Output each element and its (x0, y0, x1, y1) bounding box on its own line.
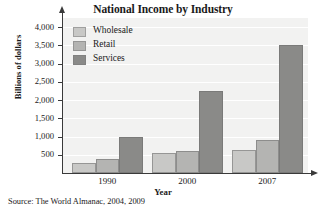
y-axis-tick (58, 155, 63, 156)
legend-label-retail: Retail (93, 39, 115, 49)
gridline (63, 137, 308, 138)
legend-swatch-retail (73, 41, 86, 51)
y-axis-tick (58, 137, 63, 138)
bar-wholesale-2007 (232, 150, 256, 173)
source-note: Source: The World Almanac, 2004, 2009 (8, 197, 145, 206)
bar-services-1990 (119, 137, 143, 173)
gridline (63, 100, 308, 101)
y-axis-tick (58, 118, 63, 119)
y-axis-tick (58, 27, 63, 28)
y-axis-line (62, 12, 63, 174)
x-axis-title: Year (0, 187, 326, 197)
chart-figure: National Income by Industry 5001,0001,50… (0, 0, 326, 215)
bar-services-2000 (199, 91, 223, 173)
y-axis-title: Billions of dollars (13, 12, 23, 122)
y-axis-tick (58, 82, 63, 83)
legend-label-wholesale: Wholesale (93, 25, 133, 35)
legend-swatch-services (73, 55, 86, 65)
bar-wholesale-1990 (72, 163, 96, 173)
y-axis-tick-label: 3,500 (4, 40, 54, 50)
y-axis-tick (58, 64, 63, 65)
y-axis-tick-label: 2,500 (4, 76, 54, 86)
gridline (63, 82, 308, 83)
x-axis-tick-label-2007: 2007 (237, 176, 297, 186)
y-axis-tick (58, 45, 63, 46)
x-axis-tick-label-1990: 1990 (77, 176, 137, 186)
x-axis-tick-label-2000: 2000 (157, 176, 217, 186)
y-axis-tick (58, 100, 63, 101)
y-axis-tick-label: 2,000 (4, 95, 54, 105)
bar-wholesale-2000 (152, 153, 176, 173)
bar-retail-1990 (96, 159, 120, 173)
gridline (63, 118, 308, 119)
y-axis-tick-label: 500 (4, 149, 54, 159)
bar-services-2007 (279, 45, 303, 173)
legend-label-services: Services (93, 53, 125, 63)
y-axis-tick-label: 3,000 (4, 58, 54, 68)
bar-retail-2000 (176, 151, 200, 173)
x-axis-line (62, 173, 312, 174)
legend-swatch-wholesale (73, 27, 86, 37)
y-axis-tick-label: 1,500 (4, 113, 54, 123)
y-axis-tick-label: 4,000 (4, 22, 54, 32)
chart-title: National Income by Industry (0, 3, 326, 15)
x-axis-arrow-icon (311, 170, 318, 176)
gridline (63, 64, 308, 65)
y-axis-tick-label: 1,000 (4, 131, 54, 141)
bar-retail-2007 (256, 140, 280, 173)
